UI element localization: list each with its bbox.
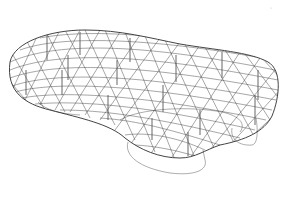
ground-footprints bbox=[38, 102, 257, 174]
inner-curve bbox=[120, 109, 242, 132]
footprint-front bbox=[127, 142, 205, 174]
speck bbox=[270, 7, 271, 8]
shell-outline bbox=[9, 30, 278, 158]
gridshell-wireframe-drawing bbox=[0, 0, 295, 214]
shell-mesh bbox=[0, 30, 282, 160]
